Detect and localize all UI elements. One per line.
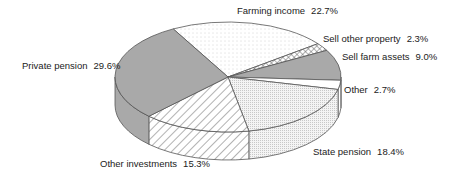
pie-top — [115, 22, 341, 132]
label-name: Other investments — [100, 158, 177, 169]
label-name: Private pension — [22, 60, 87, 71]
label-name: Sell farm assets — [342, 51, 410, 62]
label-name: State pension — [313, 146, 371, 157]
label-pct: 2.3% — [407, 33, 429, 44]
label-farming-income: Farming income22.7% — [237, 5, 338, 16]
label-pct: 9.0% — [416, 51, 438, 62]
label-sell-other-property: Sell other property2.3% — [323, 33, 428, 44]
label-name: Sell other property — [323, 33, 401, 44]
label-other: Other2.7% — [344, 84, 395, 95]
label-pct: 15.3% — [183, 158, 210, 169]
label-state-pension: State pension18.4% — [313, 146, 404, 157]
label-pct: 29.6% — [93, 60, 120, 71]
label-pct: 2.7% — [374, 84, 396, 95]
label-sell-farm-assets: Sell farm assets9.0% — [342, 51, 437, 62]
label-pct: 18.4% — [377, 146, 404, 157]
label-other-investments: Other investments15.3% — [100, 158, 210, 169]
label-name: Farming income — [237, 5, 305, 16]
label-name: Other — [344, 84, 368, 95]
label-pct: 22.7% — [311, 5, 338, 16]
label-private-pension: Private pension29.6% — [22, 60, 120, 71]
